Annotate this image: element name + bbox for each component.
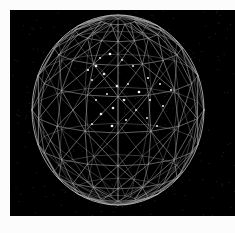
grain-speckle: [93, 144, 94, 145]
grain-speckle: [36, 172, 37, 173]
grain-speckle: [14, 59, 15, 60]
grain-speckle: [25, 118, 26, 119]
grain-speckle: [69, 99, 70, 100]
grain-speckle: [201, 81, 202, 82]
grain-speckle: [29, 103, 30, 104]
grain-speckle: [46, 196, 47, 197]
grain-speckle: [93, 75, 94, 76]
grain-speckle: [92, 42, 93, 43]
grain-speckle: [222, 185, 223, 186]
grain-speckle: [126, 205, 127, 206]
grain-speckle: [96, 50, 97, 51]
vertex-dot: [112, 107, 115, 110]
vertex-dot: [135, 109, 137, 111]
grain-speckle: [165, 125, 166, 126]
grain-speckle: [169, 150, 170, 151]
grain-speckle: [222, 184, 223, 185]
grain-speckle: [227, 93, 228, 94]
grain-speckle: [124, 37, 125, 38]
grain-speckle: [75, 211, 76, 212]
grain-speckle: [56, 133, 57, 134]
vertex-dot: [125, 119, 127, 121]
grain-speckle: [18, 115, 19, 116]
grain-speckle: [183, 43, 184, 44]
grain-speckle: [172, 185, 173, 186]
grain-speckle: [228, 144, 229, 145]
grain-speckle: [156, 52, 157, 53]
grain-speckle: [178, 156, 179, 157]
grain-speckle: [17, 61, 18, 62]
grain-speckle: [140, 205, 141, 206]
grain-speckle: [189, 179, 190, 180]
vertex-dot: [116, 85, 119, 88]
grain-speckle: [81, 37, 82, 38]
grain-speckle: [152, 15, 153, 16]
grain-speckle: [122, 206, 123, 207]
grain-speckle: [61, 205, 62, 206]
grain-speckle: [75, 59, 76, 60]
grain-speckle: [208, 130, 209, 131]
grain-speckle: [17, 162, 18, 163]
grain-speckle: [185, 195, 186, 196]
grain-speckle: [199, 43, 200, 44]
grain-speckle: [209, 163, 210, 164]
grain-speckle: [224, 92, 225, 93]
grain-speckle: [218, 22, 219, 23]
vertex-dot: [99, 57, 101, 59]
grain-speckle: [88, 100, 89, 101]
vertex-dot: [91, 123, 93, 125]
vertex-dot: [95, 65, 98, 68]
grain-speckle: [229, 182, 230, 183]
grain-speckle: [199, 60, 200, 61]
grain-speckle: [145, 62, 146, 63]
grain-speckle: [154, 200, 155, 201]
grain-speckle: [19, 201, 20, 202]
grain-speckle: [97, 47, 98, 48]
grain-speckle: [218, 56, 219, 57]
grain-speckle: [167, 75, 168, 76]
grain-speckle: [173, 18, 174, 19]
grain-speckle: [105, 88, 106, 89]
grain-speckle: [33, 29, 34, 30]
grain-speckle: [217, 69, 218, 70]
grain-speckle: [190, 77, 191, 78]
grain-speckle: [217, 11, 218, 12]
grain-speckle: [130, 216, 131, 217]
grain-speckle: [158, 161, 159, 162]
wireframe-sphere: [10, 10, 235, 216]
grain-speckle: [220, 15, 221, 16]
vertex-dot: [147, 77, 149, 79]
vertex-dot: [91, 79, 93, 81]
grain-speckle: [33, 187, 34, 188]
grain-speckle: [161, 160, 162, 161]
grain-speckle: [130, 15, 131, 16]
grain-speckle: [29, 34, 30, 35]
grain-speckle: [37, 49, 38, 50]
grain-speckle: [78, 146, 79, 147]
vertex-dot: [123, 99, 126, 102]
grain-speckle: [157, 42, 158, 43]
grain-speckle: [124, 113, 125, 114]
grain-speckle: [166, 111, 167, 112]
grain-speckle: [35, 212, 36, 213]
grain-speckle: [19, 115, 20, 116]
grain-speckle: [203, 214, 204, 215]
grain-speckle: [204, 12, 205, 13]
grain-speckle: [209, 37, 210, 38]
grain-speckle: [223, 152, 224, 153]
grain-speckle: [143, 132, 144, 133]
grain-speckle: [138, 121, 139, 122]
grain-speckle: [54, 69, 55, 70]
grain-speckle: [53, 194, 54, 195]
grain-speckle: [146, 190, 147, 191]
grain-speckle: [91, 101, 92, 102]
grain-speckle: [40, 28, 41, 29]
grain-speckle: [166, 193, 167, 194]
grain-speckle: [16, 188, 17, 189]
vertex-dot: [111, 125, 114, 128]
grain-speckle: [126, 88, 127, 89]
grain-speckle: [18, 123, 19, 124]
grain-speckle: [201, 51, 202, 52]
grain-speckle: [174, 176, 175, 177]
grain-speckle: [148, 188, 149, 189]
